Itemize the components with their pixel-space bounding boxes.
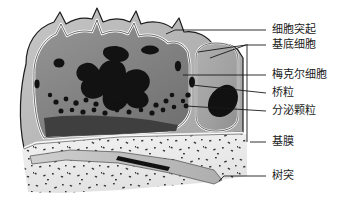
label-merkel-cell: 梅克尔细胞 xyxy=(272,69,327,81)
label-basement-membrane: 基膜 xyxy=(272,136,294,148)
label-basal-cell: 基底细胞 xyxy=(272,39,316,51)
label-secretory-granule: 分泌颗粒 xyxy=(272,105,316,117)
label-dendrite: 树突 xyxy=(272,170,294,182)
merkel-cell-diagram: 细胞突起 基底细胞 梅克尔细胞 桥粒 分泌颗粒 基膜 树突 xyxy=(0,0,341,211)
label-cell-process: 细胞突起 xyxy=(272,24,316,36)
label-desmosome: 桥粒 xyxy=(272,87,294,99)
annotation-labels: 细胞突起 基底细胞 梅克尔细胞 桥粒 分泌颗粒 基膜 树突 xyxy=(0,0,341,211)
